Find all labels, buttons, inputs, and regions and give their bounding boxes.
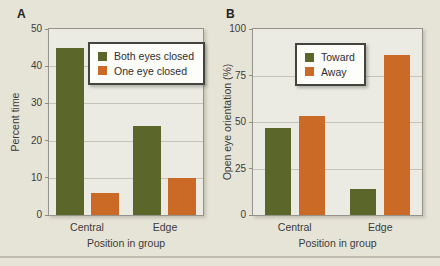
- panel-a-label: A: [17, 7, 26, 21]
- y-tick-label-40: 40: [31, 61, 42, 71]
- bar-both-eyes-closed-central: [56, 48, 84, 215]
- panel-a-y-axis-title: Percent time: [9, 93, 21, 152]
- page-bottom-edge-shadow: [0, 256, 440, 258]
- y-tick-label-20: 20: [31, 136, 42, 146]
- legend-entry-one-eye-closed: One eye closed: [98, 64, 194, 79]
- bar-away-edge: [384, 55, 410, 215]
- bar-away-central: [299, 116, 325, 215]
- y-tick-label-25: 25: [235, 164, 246, 174]
- y-tick-label-30: 30: [31, 98, 42, 108]
- y-tick-label-0: 0: [36, 210, 42, 220]
- legend-entry-toward: Toward: [305, 50, 355, 65]
- legend-entry-away: Away: [305, 65, 355, 80]
- bar-one-eye-closed-central: [91, 193, 119, 215]
- category-label-central: Central: [48, 221, 126, 233]
- figure-two-panel-bar-chart: A Percent time 01020304050 CentralEdge P…: [0, 0, 440, 266]
- y-tick-label-0: 0: [240, 210, 246, 220]
- legend-label-one-eye-closed: One eye closed: [114, 66, 187, 77]
- panel-a-legend: Both eyes closedOne eye closed: [88, 42, 205, 85]
- y-tick-label-50: 50: [31, 24, 42, 34]
- panel-b: B Open eye orientation (%) 0255075100 Ce…: [220, 0, 440, 266]
- panel-b-category-labels: CentralEdge: [252, 221, 423, 233]
- legend-label-away: Away: [321, 67, 347, 78]
- bar-both-eyes-closed-edge: [133, 126, 161, 215]
- y-tick-label-10: 10: [31, 173, 42, 183]
- category-label-edge: Edge: [338, 221, 424, 233]
- legend-swatch-away: [305, 67, 314, 76]
- category-label-edge: Edge: [126, 221, 204, 233]
- panel-a: A Percent time 01020304050 CentralEdge P…: [0, 0, 220, 266]
- y-tick-label-75: 75: [235, 71, 246, 81]
- legend-label-both-eyes-closed: Both eyes closed: [114, 51, 194, 62]
- bar-one-eye-closed-edge: [168, 178, 196, 215]
- bar-toward-central: [265, 128, 291, 215]
- panel-a-x-axis-title: Position in group: [48, 237, 204, 249]
- panel-b-y-axis-title: Open eye orientation (%): [221, 64, 233, 181]
- y-tick-label-100: 100: [229, 24, 246, 34]
- bar-toward-edge: [350, 189, 376, 215]
- y-tick-label-50: 50: [235, 117, 246, 127]
- panel-b-label: B: [226, 7, 235, 21]
- panel-a-category-labels: CentralEdge: [48, 221, 204, 233]
- legend-swatch-toward: [305, 53, 314, 62]
- legend-swatch-both-eyes-closed: [98, 52, 107, 61]
- legend-label-toward: Toward: [321, 52, 355, 63]
- legend-swatch-one-eye-closed: [98, 66, 107, 75]
- category-label-central: Central: [252, 221, 338, 233]
- legend-entry-both-eyes-closed: Both eyes closed: [98, 49, 194, 64]
- panel-b-legend: TowardAway: [295, 43, 366, 86]
- panel-b-x-axis-title: Position in group: [252, 237, 423, 249]
